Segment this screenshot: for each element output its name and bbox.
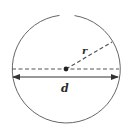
circle-diagram: r d [0, 0, 128, 127]
dashed-radius-line [66, 42, 112, 69]
radius-label: r [82, 45, 88, 56]
diameter-label: d [61, 82, 69, 95]
center-point [64, 67, 69, 72]
